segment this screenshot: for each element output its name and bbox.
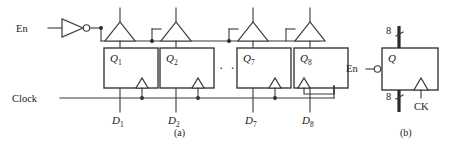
d-label-8: D8 — [301, 114, 314, 129]
circuit-figure: Q1 D1 Q2 D2 · · · — [0, 0, 460, 150]
clock-input-label: Clock — [12, 93, 38, 104]
enable-input-label: En — [16, 23, 28, 34]
panel-b-enable-label: En — [346, 63, 358, 74]
caption-a: (a) — [174, 127, 185, 139]
inverter-gate — [62, 19, 90, 37]
d-label-1: D1 — [111, 114, 124, 129]
stage-8: Q8 D8 — [286, 8, 348, 129]
panel-b-bus-out-width: 8 — [386, 91, 391, 102]
panel-b-clock-label: CK — [414, 101, 429, 112]
stage-1: Q1 D1 — [104, 8, 158, 129]
panel-b-q-label: Q — [388, 52, 396, 64]
caption-b: (b) — [400, 127, 412, 139]
stage-7: Q7 D7 — [227, 8, 291, 129]
stage-2: Q2 D2 — [150, 8, 214, 129]
panel-b-bus-in-width: 8 — [386, 25, 391, 36]
panel-b-symbol: Q 8 8 En CK — [346, 25, 438, 112]
d-label-7: D7 — [244, 114, 257, 129]
